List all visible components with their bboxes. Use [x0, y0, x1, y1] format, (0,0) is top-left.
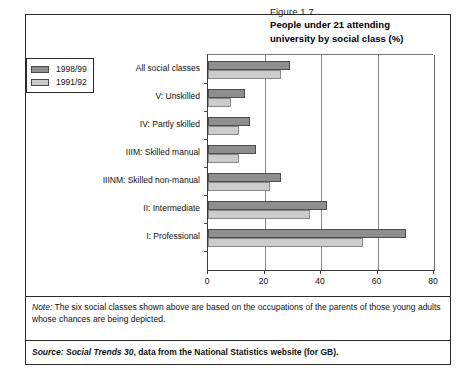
category-label-4: IIINM: Skilled non-manual — [103, 175, 200, 185]
bar-1991-92-3 — [208, 154, 239, 163]
legend-swatch-icon-1991-92 — [31, 79, 49, 86]
note-text: The six social classes shown above are b… — [32, 302, 441, 324]
note-label: Note: — [32, 302, 52, 312]
gridline-60 — [378, 55, 379, 271]
legend-swatch-icon-1998-99 — [31, 66, 49, 73]
bar-1998-99-2 — [208, 117, 250, 126]
bar-1991-92-4 — [208, 182, 270, 191]
category-label-0: All social classes — [136, 63, 200, 73]
x-axis-line — [207, 270, 434, 271]
bar-1991-92-1 — [208, 98, 231, 107]
source-label: Source: Social Trends 30 — [32, 347, 133, 357]
category-label-6: I: Professional — [146, 231, 200, 241]
figure-root: Figure 1.7 People under 21 attending uni… — [0, 0, 475, 383]
plot-area — [207, 54, 433, 270]
category-axis-labels: All social classesV: UnskilledIV: Partly… — [60, 54, 200, 250]
bar-1991-92-5 — [208, 210, 310, 219]
figure-source: Source: Social Trends 30, data from the … — [32, 346, 444, 358]
figure-number: Figure 1.7 — [270, 6, 450, 18]
bar-1998-99-3 — [208, 145, 256, 154]
category-label-5: II: Intermediate — [143, 203, 200, 213]
figure-title-line-1: People under 21 attending — [270, 19, 450, 32]
gridline-80 — [434, 55, 435, 271]
notes-divider-bottom — [26, 340, 450, 341]
figure-title-block: Figure 1.7 People under 21 attending uni… — [270, 6, 450, 45]
figure-note: Note: The six social classes shown above… — [32, 301, 444, 325]
notes-divider-top — [26, 296, 450, 297]
y-tick-5 — [204, 223, 208, 224]
bar-1991-92-6 — [208, 238, 363, 247]
y-tick-6 — [204, 251, 208, 252]
y-tick-4 — [204, 195, 208, 196]
bar-1991-92-0 — [208, 70, 281, 79]
figure-title-line-2: university by social class (%) — [270, 33, 450, 46]
bar-1998-99-0 — [208, 61, 290, 70]
category-label-3: IIIM: Skilled manual — [126, 147, 200, 157]
bar-1991-92-2 — [208, 126, 239, 135]
y-tick-3 — [204, 167, 208, 168]
y-tick-2 — [204, 139, 208, 140]
y-tick-0 — [204, 83, 208, 84]
y-tick-1 — [204, 111, 208, 112]
category-label-2: IV: Partly skilled — [140, 119, 200, 129]
bar-1998-99-4 — [208, 173, 281, 182]
source-text: , data from the National Statistics webs… — [133, 347, 338, 357]
bar-1998-99-1 — [208, 89, 245, 98]
category-label-1: V: Unskilled — [155, 91, 200, 101]
bar-1998-99-5 — [208, 201, 327, 210]
bar-1998-99-6 — [208, 229, 406, 238]
